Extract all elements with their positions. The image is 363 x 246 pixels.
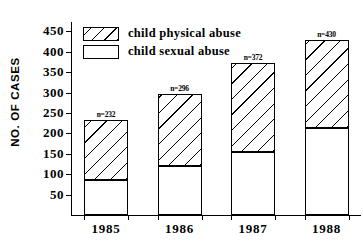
bar-1985: n=232 <box>84 120 128 215</box>
x-tick <box>128 215 129 220</box>
bar-total-label-1985: n=232 <box>84 110 128 119</box>
x-tick <box>158 215 159 220</box>
legend-label-sexual: child sexual abuse <box>128 44 230 59</box>
stacked-bar-chart: NO. OF CASES 50100150200250300350400450 … <box>0 0 363 246</box>
y-axis-title: NO. OF CASES <box>9 32 21 172</box>
legend-swatch-physical-icon <box>83 27 119 41</box>
x-tick <box>349 215 350 220</box>
y-tick-label: 200 <box>43 125 64 141</box>
x-tick <box>305 215 306 220</box>
x-tick <box>275 215 276 220</box>
bar-1987: n=372 <box>231 63 275 215</box>
y-tick-label: 400 <box>43 44 64 60</box>
bar-segment-sexual-1985 <box>84 180 128 215</box>
y-tick-label: 250 <box>43 105 64 121</box>
legend-swatch-sexual-icon <box>83 45 119 59</box>
y-tick <box>66 31 71 32</box>
bar-segment-physical-1985 <box>84 120 128 180</box>
bar-segment-physical-1986 <box>158 94 202 166</box>
x-category-label-1988: 1988 <box>297 221 357 237</box>
y-axis-line <box>71 22 72 215</box>
bar-total-label-1986: n=296 <box>158 84 202 93</box>
y-tick <box>66 174 71 175</box>
bar-1988: n=430 <box>305 40 349 215</box>
y-tick-label: 50 <box>50 187 64 203</box>
bar-total-label-1988: n=430 <box>305 30 349 39</box>
bar-segment-sexual-1987 <box>231 152 275 215</box>
legend-item-sexual: child sexual abuse <box>83 43 241 60</box>
bar-1986: n=296 <box>158 94 202 215</box>
x-category-label-1987: 1987 <box>223 221 283 237</box>
y-tick <box>66 72 71 73</box>
x-category-label-1986: 1986 <box>150 221 210 237</box>
chart-legend: child physical abuse child sexual abuse <box>83 25 241 61</box>
y-tick <box>66 113 71 114</box>
y-tick <box>66 133 71 134</box>
x-tick <box>202 215 203 220</box>
y-tick-label: 150 <box>43 146 64 162</box>
x-axis-line <box>71 215 361 216</box>
x-tick <box>84 215 85 220</box>
x-tick <box>231 215 232 220</box>
bar-segment-physical-1987 <box>231 63 275 152</box>
y-tick-label: 350 <box>43 64 64 80</box>
y-tick-label: 450 <box>43 23 64 39</box>
y-tick-label: 300 <box>43 85 64 101</box>
y-tick-label: 100 <box>43 166 64 182</box>
x-category-label-1985: 1985 <box>76 221 136 237</box>
y-tick <box>66 52 71 53</box>
legend-label-physical: child physical abuse <box>128 26 241 41</box>
legend-item-physical: child physical abuse <box>83 25 241 42</box>
bar-segment-physical-1988 <box>305 40 349 128</box>
bar-segment-sexual-1986 <box>158 166 202 215</box>
y-tick <box>66 195 71 196</box>
y-tick <box>66 93 71 94</box>
bar-segment-sexual-1988 <box>305 128 349 215</box>
y-tick <box>66 154 71 155</box>
